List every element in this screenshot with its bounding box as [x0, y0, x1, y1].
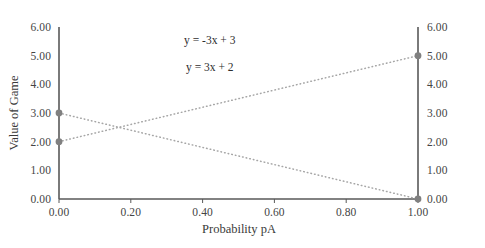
x-axis-tick-label: 0.40	[192, 206, 213, 218]
y-axis-left-tick-label: 5.00	[30, 50, 51, 62]
chart-container: 0.001.002.003.004.005.006.00 0.001.002.0…	[0, 0, 485, 248]
x-axis-tick-label: 0.60	[264, 206, 285, 218]
y-axis-right-tick-label: 5.00	[427, 50, 448, 62]
series-marker	[415, 52, 422, 59]
equation-label-1: y = 3x + 2	[186, 61, 233, 73]
y-axis-right-tick-label: 6.00	[427, 21, 448, 33]
y-axis-right-tick-label: 1.00	[427, 164, 448, 176]
x-axis-title: Probability pA	[202, 222, 276, 237]
equation-label-0: y = -3x + 3	[184, 34, 235, 46]
y-axis-left-tick-label: 0.00	[30, 193, 51, 205]
y-axis-right-tick-label: 0.00	[427, 193, 448, 205]
y-axis-left-tick-label: 3.00	[30, 107, 51, 119]
y-axis-right-tick-label: 3.00	[427, 107, 448, 119]
x-axis-tick-label: 0.00	[49, 206, 70, 218]
y-axis-left-tick-label: 4.00	[30, 78, 51, 90]
series-marker	[415, 196, 422, 203]
y-axis-right-tick-label: 2.00	[427, 136, 448, 148]
y-axis-title: Value of Game	[7, 76, 22, 151]
series-marker	[56, 110, 63, 117]
y-axis-right-tick-label: 4.00	[427, 78, 448, 90]
x-axis-tick-label: 0.20	[121, 206, 142, 218]
y-axis-left-tick-label: 1.00	[30, 164, 51, 176]
y-axis-left-tick-label: 2.00	[30, 136, 51, 148]
y-axis-left-tick-label: 6.00	[30, 21, 51, 33]
series-line-0	[59, 113, 418, 199]
x-axis-tick-label: 0.80	[336, 206, 357, 218]
series-marker	[56, 138, 63, 145]
series-line-1	[59, 56, 418, 142]
x-axis-tick-label: 1.00	[408, 206, 429, 218]
